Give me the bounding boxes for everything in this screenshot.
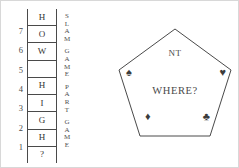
diamond-icon: ♦ [145,111,151,122]
legend-word-part: P A R T [64,84,69,114]
club-icon: ♣ [203,111,210,122]
ladder-step: G [28,111,56,128]
legend-word-game-lower: G A M E [64,119,70,149]
pentagon-where-label: WHERE? [152,85,198,96]
ladder-step [28,60,56,77]
ladder-level-numbers: 7 6 5 4 3 2 1 [9,27,23,152]
ladder-step: H [28,77,56,94]
legend-word-game-upper: G A M E [64,48,70,78]
ladder-step: H [28,129,56,146]
heart-icon: ♥ [219,67,226,78]
ladder-steps: H O W H I G H ? [28,9,56,163]
ladder-step: I [28,94,56,111]
ladder-level-number: 1 [9,143,23,152]
ladder-step: W [28,42,56,59]
legend-char: T [65,107,69,115]
diagram-canvas: 7 6 5 4 3 2 1 H O W H I G H ? [0,0,239,168]
ladder-level-number: 5 [9,66,23,75]
ladder-level-number: 7 [9,27,23,36]
ladder-step: H [28,9,56,25]
ladder-level-number: 6 [9,46,23,55]
ladder-question-mark: ? [28,146,56,163]
ladder-body: H O W H I G H ? [27,7,57,165]
ladder-rail-right [56,9,57,163]
legend-char: E [65,71,69,79]
ladder-level-number: 2 [9,124,23,133]
contract-level-legend: S L A M G A M E P A R T G A M E [59,13,75,163]
legend-char: M [64,36,70,44]
where-pentagon: NT WHERE? ♠ ♥ ♦ ♣ [114,23,236,149]
ladder-step: O [28,25,56,42]
pentagon-notrump-label: NT [169,48,182,58]
legend-char: E [65,142,69,150]
ladder-level-number: 4 [9,85,23,94]
spade-icon: ♠ [126,67,132,78]
ladder-level-number: 3 [9,104,23,113]
legend-word-slam: S L A M [64,13,70,43]
